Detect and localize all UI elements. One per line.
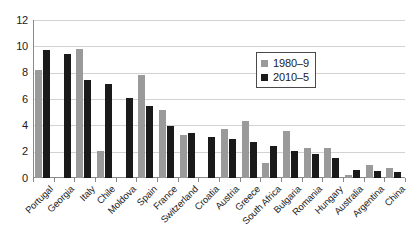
bar <box>283 131 290 178</box>
bar-group <box>322 20 343 178</box>
bar <box>250 142 257 178</box>
y-axis-tick-label: 10 <box>2 41 28 52</box>
bar <box>208 137 215 178</box>
x-axis-category-label: South Africa <box>134 184 282 244</box>
bar-group <box>116 20 137 178</box>
bar-group <box>33 20 54 178</box>
bar <box>138 75 145 178</box>
bar-group <box>302 20 323 178</box>
bar <box>242 121 249 178</box>
bar <box>35 70 42 178</box>
bar <box>105 84 112 178</box>
bar-group <box>240 20 261 178</box>
legend-label: 1980–9 <box>273 58 309 69</box>
x-axis-tick <box>219 178 220 182</box>
bars-layer <box>33 20 405 178</box>
bar-group <box>260 20 281 178</box>
x-axis-category-label: Portugal <box>0 184 55 244</box>
x-axis-category-label: Argentina <box>238 184 386 244</box>
bar <box>374 171 381 178</box>
bar <box>64 54 71 178</box>
x-axis-tick <box>384 178 385 182</box>
x-axis-tick <box>157 178 158 182</box>
x-axis-tick <box>364 178 365 182</box>
legend-swatch-icon <box>261 60 268 67</box>
bar <box>180 135 187 178</box>
bar <box>270 146 277 178</box>
x-axis-tick <box>136 178 137 182</box>
y-axis-tick-label: 4 <box>2 120 28 131</box>
x-axis-category-label: Austria <box>93 184 241 244</box>
bar <box>229 139 236 179</box>
x-axis-tick <box>322 178 323 182</box>
bar-group <box>343 20 364 178</box>
bar <box>76 49 83 178</box>
bar-group <box>157 20 178 178</box>
y-axis-tick-label: 0 <box>2 173 28 184</box>
x-axis-category-label: Chile <box>0 184 117 244</box>
x-axis-category-label: Greece <box>114 184 262 244</box>
x-axis-category-label: China <box>258 184 406 244</box>
legend: 1980–9 2010–5 <box>256 52 316 88</box>
bar-group <box>198 20 219 178</box>
x-axis-tick <box>281 178 282 182</box>
bar-group <box>384 20 405 178</box>
x-axis-category-label: Hungary <box>196 184 344 244</box>
y-axis-tick-label: 12 <box>2 15 28 26</box>
bar <box>332 158 339 178</box>
x-axis-tick <box>178 178 179 182</box>
bar <box>84 80 91 178</box>
legend-label: 2010–5 <box>273 72 309 83</box>
bar <box>345 175 352 178</box>
bar-chart: 024681012 PortugalGeorgiaItalyChileMoldo… <box>0 0 414 244</box>
bar-group <box>54 20 75 178</box>
y-axis-tick-label: 8 <box>2 67 28 78</box>
x-axis-tick <box>260 178 261 182</box>
bar <box>126 98 133 178</box>
x-axis-tick <box>95 178 96 182</box>
bar <box>324 148 331 178</box>
bar <box>146 106 153 178</box>
x-axis-category-label: Switzerland <box>52 184 200 244</box>
bar-group <box>178 20 199 178</box>
x-axis-tick <box>302 178 303 182</box>
bar-group <box>219 20 240 178</box>
x-axis-category-label: Georgia <box>0 184 76 244</box>
x-axis-tick <box>240 178 241 182</box>
x-axis-category-label: Bulgaria <box>155 184 303 244</box>
bar-group <box>95 20 116 178</box>
bar-group <box>136 20 157 178</box>
bar-group <box>281 20 302 178</box>
bar <box>291 151 298 178</box>
bar <box>188 133 195 178</box>
x-axis-tick <box>54 178 55 182</box>
y-axis-tick-label: 2 <box>2 146 28 157</box>
bar <box>304 148 311 178</box>
bar <box>394 172 401 178</box>
bar-group <box>74 20 95 178</box>
x-axis-tick <box>33 178 34 182</box>
x-axis-category-label: Croatia <box>72 184 220 244</box>
x-axis-tick <box>198 178 199 182</box>
bar-group <box>364 20 385 178</box>
bar <box>159 110 166 178</box>
y-axis-tick-label: 6 <box>2 94 28 105</box>
bar <box>386 168 393 178</box>
x-axis-category-label: France <box>31 184 179 244</box>
bar <box>353 170 360 178</box>
x-axis-tick <box>405 178 406 182</box>
legend-swatch-icon <box>261 74 268 81</box>
bar <box>167 126 174 178</box>
x-axis-category-label: Romania <box>176 184 324 244</box>
x-axis-tick <box>116 178 117 182</box>
bar <box>262 163 269 178</box>
x-axis-tick <box>343 178 344 182</box>
legend-item-series-0: 1980–9 <box>261 56 309 70</box>
x-axis-category-label: Italy <box>0 184 96 244</box>
bar <box>312 154 319 178</box>
bar <box>221 129 228 178</box>
x-axis-category-label: Moldova <box>0 184 138 244</box>
x-axis-category-label: Australia <box>217 184 365 244</box>
x-axis-category-label: Spain <box>10 184 158 244</box>
x-axis-tick <box>74 178 75 182</box>
